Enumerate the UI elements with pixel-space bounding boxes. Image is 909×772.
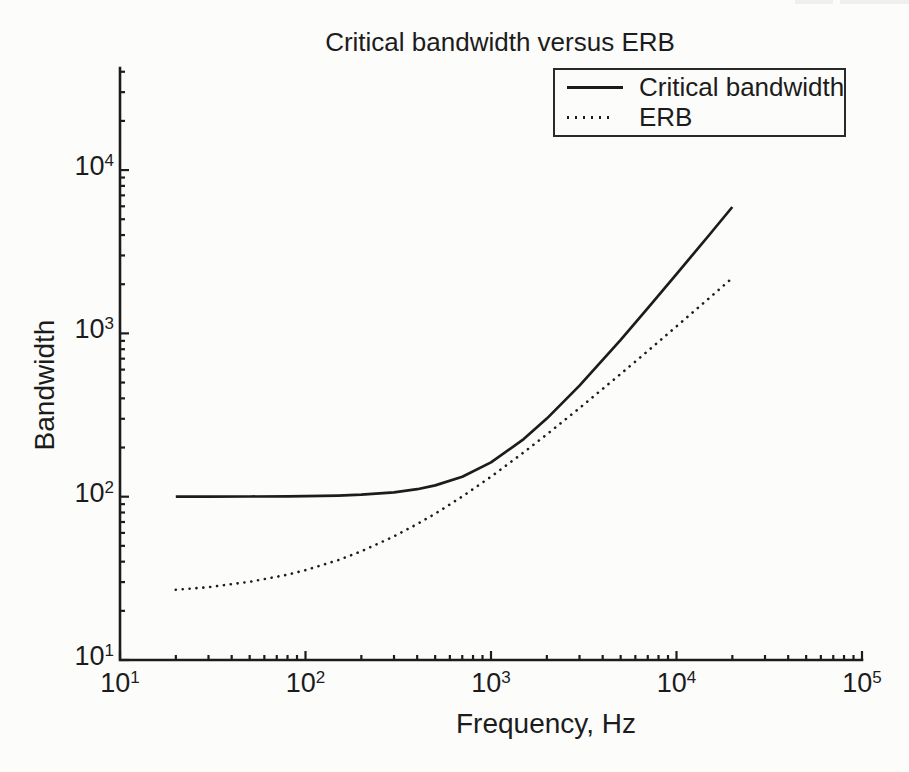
x-tick-label: 101: [100, 668, 140, 698]
series-critical-bandwidth: [176, 207, 733, 497]
y-tick-label: 104: [0, 151, 114, 181]
legend-label-critical-bandwidth: Critical bandwidth: [639, 72, 844, 103]
legend-line-solid: [567, 86, 623, 89]
x-tick-label: 105: [842, 668, 882, 698]
y-tick-label: 101: [0, 641, 114, 671]
legend-line-dotted: [567, 116, 615, 119]
x-tick-label: 104: [657, 668, 697, 698]
x-axis-label: Frequency, Hz: [456, 708, 636, 740]
x-tick-label: 102: [286, 668, 326, 698]
series-erb: [176, 278, 733, 590]
scanned-figure-page: Critical bandwidth versus ERB 1011021031…: [0, 0, 909, 772]
axes-lines: [120, 68, 862, 660]
x-tick-label: 103: [471, 668, 511, 698]
y-tick-label: 102: [0, 478, 114, 508]
y-axis-label: Bandwidth: [29, 320, 61, 451]
legend: Critical bandwidth ERB: [553, 68, 846, 137]
legend-label-erb: ERB: [639, 102, 692, 133]
legend-row: ERB: [555, 103, 844, 133]
legend-row: Critical bandwidth: [555, 72, 844, 102]
